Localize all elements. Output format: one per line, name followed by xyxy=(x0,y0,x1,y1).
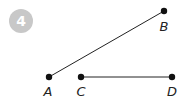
point-d xyxy=(169,74,175,80)
label-b: B xyxy=(160,19,169,34)
label-d: D xyxy=(167,84,177,99)
point-b xyxy=(161,8,167,14)
geometry-diagram: 4 A B C D xyxy=(0,0,181,104)
label-c: C xyxy=(76,84,86,99)
point-c xyxy=(78,74,84,80)
problem-number: 4 xyxy=(16,13,26,29)
label-a: A xyxy=(43,84,53,99)
point-a xyxy=(46,74,52,80)
problem-number-badge: 4 xyxy=(9,9,33,33)
segment-ab xyxy=(49,11,164,77)
